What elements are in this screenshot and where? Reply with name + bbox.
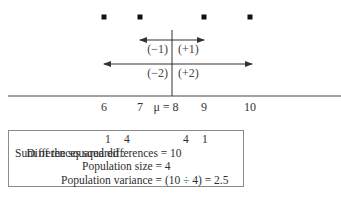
axis-tick-label: 6 <box>101 100 107 114</box>
population-size-line: Population size = 4 <box>82 160 171 174</box>
axis-tick-label: 9 <box>201 100 207 114</box>
squared-difference-value: 4 <box>183 133 189 147</box>
squared-difference-value: 4 <box>124 133 130 147</box>
mean-tick-label: μ = 8 <box>153 100 178 114</box>
squared-difference-value: 1 <box>105 133 111 147</box>
summary-box: Differences squared : 1 4 4 1 Sum of the… <box>8 130 244 187</box>
axis-tick-label: 7 <box>137 100 143 114</box>
squared-difference-value: 1 <box>202 133 208 147</box>
sum-of-squares-line: Sum of the squared differences = 10 <box>15 147 182 161</box>
data-point <box>102 15 107 20</box>
positive-deviation-label: (+1) <box>178 42 199 56</box>
negative-deviation-label: (−1) <box>147 42 168 56</box>
data-point <box>138 15 143 20</box>
data-point <box>202 15 207 20</box>
data-point <box>248 15 253 20</box>
negative-deviation-label: (−2) <box>147 66 168 80</box>
population-variance-line: Population variance = (10 ÷ 4) = 2.5 <box>61 174 228 188</box>
axis-tick-label: 10 <box>244 100 256 114</box>
positive-deviation-label: (+2) <box>178 66 199 80</box>
